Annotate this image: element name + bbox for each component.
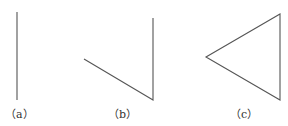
figure-a: （a） <box>5 12 34 121</box>
figure-a-caption: （a） <box>5 108 34 121</box>
diagram-canvas: （a） （b） （c） <box>0 0 288 126</box>
figure-b: （b） <box>84 18 153 121</box>
figure-c-triangle <box>206 14 280 100</box>
figure-c-caption: （c） <box>230 108 258 121</box>
figure-c: （c） <box>206 14 280 121</box>
figure-b-polyline <box>84 18 153 100</box>
figure-b-caption: （b） <box>108 108 137 121</box>
